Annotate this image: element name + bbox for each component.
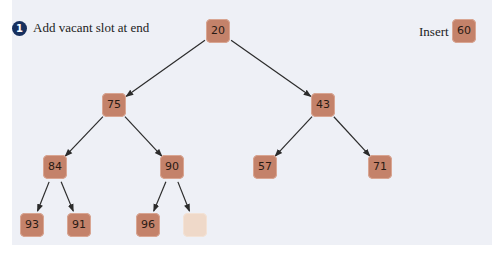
heap-node: 75 bbox=[102, 93, 126, 117]
tree-edge-arrow bbox=[231, 40, 311, 96]
heap-node: 96 bbox=[136, 213, 160, 237]
tree-edge-arrow bbox=[275, 117, 312, 156]
vacant-slot-node bbox=[183, 213, 207, 237]
heap-node: 84 bbox=[43, 155, 67, 179]
heap-node: 43 bbox=[311, 93, 335, 117]
heap-node: 71 bbox=[368, 155, 392, 179]
tree-edge-arrow bbox=[61, 182, 73, 211]
tree-edge-arrow bbox=[65, 117, 103, 157]
heap-node: 91 bbox=[67, 213, 91, 237]
tree-edge-arrow bbox=[334, 117, 370, 156]
tree-edge-arrow bbox=[125, 117, 162, 156]
tree-edge-arrow bbox=[154, 182, 166, 211]
heap-node: 90 bbox=[160, 155, 184, 179]
tree-edge-arrow bbox=[178, 182, 190, 211]
heap-node: 93 bbox=[20, 213, 44, 237]
tree-edge-arrow bbox=[38, 182, 50, 211]
tree-edge-arrow bbox=[126, 40, 205, 96]
heap-node: 57 bbox=[253, 155, 277, 179]
heap-node: 20 bbox=[206, 19, 230, 43]
